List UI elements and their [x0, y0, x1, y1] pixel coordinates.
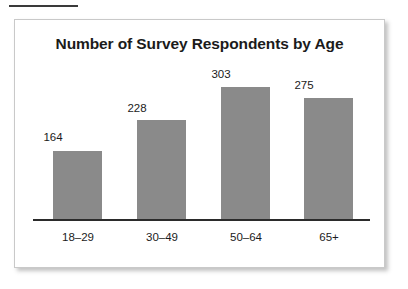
- bar-value-label: 303: [191, 68, 251, 80]
- bar[interactable]: [137, 120, 186, 219]
- category-label: 18–29: [43, 231, 113, 243]
- bar[interactable]: [221, 87, 270, 219]
- bar[interactable]: [304, 98, 353, 219]
- bar[interactable]: [53, 151, 102, 219]
- bar-value-label: 228: [107, 102, 167, 114]
- category-label: 30–49: [127, 231, 197, 243]
- bar-value-label: 164: [23, 131, 83, 143]
- category-label: 65+: [294, 231, 364, 243]
- chart-card: Number of Survey Respondents by Age 164 …: [14, 19, 385, 268]
- category-label: 50–64: [211, 231, 281, 243]
- bar-value-label: 275: [274, 79, 334, 91]
- x-axis-line: [33, 219, 370, 221]
- horizontal-rule: [9, 5, 78, 7]
- bar-chart-plot: 164 18–29 228 30–49 303 50–64 275 65+: [15, 20, 384, 267]
